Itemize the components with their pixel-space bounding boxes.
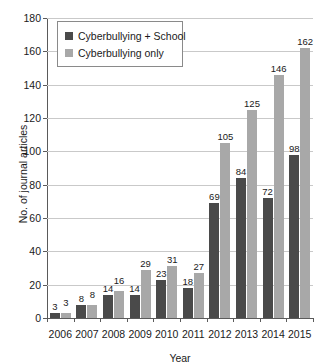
bar xyxy=(167,266,177,318)
bar xyxy=(274,75,284,318)
x-tick-mark xyxy=(207,318,208,322)
bar xyxy=(114,291,124,318)
bar xyxy=(220,143,230,318)
bar xyxy=(300,48,310,318)
bar-value-label: 105 xyxy=(217,131,233,142)
x-tick-mark xyxy=(313,318,314,322)
y-tick-label: 160 xyxy=(23,45,41,57)
bar xyxy=(76,305,86,318)
bar-value-label: 72 xyxy=(262,186,273,197)
bar-value-label: 3 xyxy=(52,301,57,312)
bar-value-label: 29 xyxy=(140,258,151,269)
bar xyxy=(130,295,140,318)
x-tick-mark xyxy=(153,318,154,322)
bar-value-label: 98 xyxy=(289,143,300,154)
x-tick-mark xyxy=(286,318,287,322)
bar xyxy=(50,313,60,318)
bar-value-label: 8 xyxy=(90,289,95,300)
x-tick-label: 2015 xyxy=(288,328,311,340)
y-tick-label: 0 xyxy=(35,312,41,324)
bar xyxy=(183,288,193,318)
x-tick-label: 2014 xyxy=(261,328,284,340)
bar xyxy=(156,280,166,318)
bar-value-label: 69 xyxy=(209,191,220,202)
bar xyxy=(141,270,151,318)
x-tick-mark xyxy=(127,318,128,322)
plot-area: 020406080100120140160180 200620072008200… xyxy=(47,18,313,318)
x-tick-label: 2009 xyxy=(128,328,151,340)
bar-value-label: 125 xyxy=(244,98,260,109)
bar xyxy=(87,305,97,318)
x-tick-mark xyxy=(100,318,101,322)
y-tick-label: 120 xyxy=(23,112,41,124)
bar xyxy=(209,203,219,318)
bar xyxy=(289,155,299,318)
y-tick-label: 60 xyxy=(29,212,41,224)
bar xyxy=(247,110,257,318)
y-tick-label: 180 xyxy=(23,12,41,24)
x-tick-label: 2007 xyxy=(75,328,98,340)
x-tick-label: 2008 xyxy=(102,328,125,340)
bar xyxy=(263,198,273,318)
bar xyxy=(194,273,204,318)
y-tick-label: 80 xyxy=(29,179,41,191)
bar-value-label: 8 xyxy=(79,293,84,304)
x-tick-mark xyxy=(180,318,181,322)
x-tick-label: 2012 xyxy=(208,328,231,340)
chart-legend: Cyberbullying + School Cyberbullying onl… xyxy=(57,21,183,67)
x-tick-label: 2010 xyxy=(155,328,178,340)
x-tick-mark xyxy=(47,318,48,322)
x-tick-mark xyxy=(74,318,75,322)
legend-label-series-1: Cyberbullying only xyxy=(78,47,164,59)
bar-value-label: 23 xyxy=(156,268,167,279)
legend-item-series-0: Cyberbullying + School xyxy=(65,27,176,44)
legend-item-series-1: Cyberbullying only xyxy=(65,44,176,61)
bar xyxy=(61,313,71,318)
y-tick-label: 140 xyxy=(23,79,41,91)
bar xyxy=(103,295,113,318)
bar-value-label: 3 xyxy=(63,297,68,308)
x-tick-mark xyxy=(233,318,234,322)
bar-value-label: 162 xyxy=(297,36,313,47)
bar-value-label: 84 xyxy=(236,166,247,177)
bar xyxy=(236,178,246,318)
x-tick-mark xyxy=(260,318,261,322)
legend-swatch-icon-series-0 xyxy=(65,32,73,40)
y-tick-label: 40 xyxy=(29,245,41,257)
x-tick-label: 2006 xyxy=(49,328,72,340)
bar-value-label: 14 xyxy=(129,283,140,294)
bar-value-label: 146 xyxy=(271,63,287,74)
bar-value-label: 27 xyxy=(194,261,205,272)
x-axis-title: Year xyxy=(47,352,313,364)
bar-value-label: 16 xyxy=(114,275,125,286)
bar-value-label: 31 xyxy=(167,254,178,265)
y-tick-label: 20 xyxy=(29,279,41,291)
legend-swatch-icon-series-1 xyxy=(65,49,73,57)
bar-value-label: 14 xyxy=(103,283,114,294)
bar-value-label: 18 xyxy=(183,276,194,287)
y-tick-label: 100 xyxy=(23,145,41,157)
legend-label-series-0: Cyberbullying + School xyxy=(78,30,186,42)
x-tick-label: 2013 xyxy=(235,328,258,340)
x-tick-label: 2011 xyxy=(182,328,205,340)
